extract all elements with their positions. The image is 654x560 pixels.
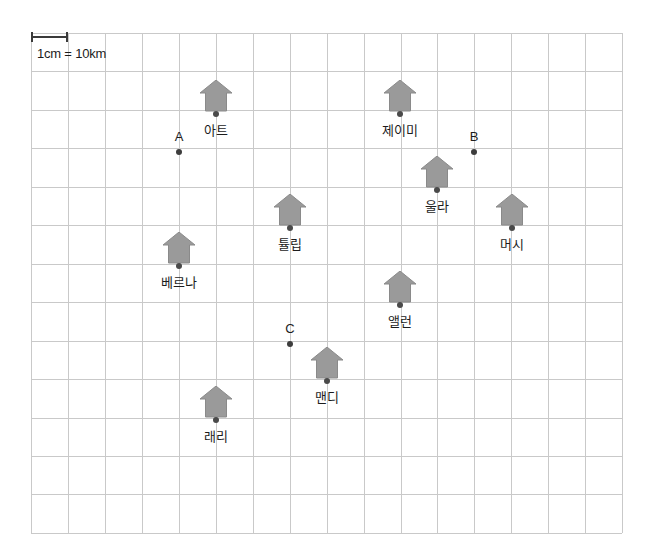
grid-line-horizontal	[31, 148, 622, 149]
grid-line-horizontal	[31, 33, 622, 34]
place-label: 제이미	[382, 120, 417, 139]
place-location-dot	[213, 111, 219, 117]
grid-line-vertical	[105, 33, 106, 533]
grid-line-vertical	[327, 33, 328, 533]
place-label: 앨런	[388, 311, 411, 330]
reference-point-dot	[471, 149, 477, 155]
scale-bar-cap-right	[66, 32, 68, 42]
place-label: 튤립	[278, 234, 301, 253]
grid-line-vertical	[585, 33, 586, 533]
grid-line-horizontal	[31, 110, 622, 111]
place-location-dot	[176, 263, 182, 269]
grid-line-horizontal	[31, 494, 622, 495]
place-label: 래리	[204, 426, 227, 445]
reference-point-label: B	[470, 129, 479, 144]
grid-line-vertical	[511, 33, 512, 533]
reference-point-dot	[176, 149, 182, 155]
grid-line-vertical	[622, 33, 623, 533]
place-label: 울라	[425, 196, 448, 215]
grid-line-horizontal	[31, 341, 622, 342]
grid-line-vertical	[253, 33, 254, 533]
grid-line-vertical	[31, 33, 32, 533]
place-location-dot	[509, 225, 515, 231]
grid-line-horizontal	[31, 456, 622, 457]
place-label: 베르나	[161, 272, 196, 291]
grid-line-vertical	[68, 33, 69, 533]
grid-line-horizontal	[31, 533, 622, 534]
grid-line-vertical	[142, 33, 143, 533]
grid-line-vertical	[364, 33, 365, 533]
grid-line-horizontal	[31, 71, 622, 72]
grid-line-horizontal	[31, 225, 622, 226]
place-label: 맨디	[315, 387, 338, 406]
place-location-dot	[213, 417, 219, 423]
scale-bar-cap-left	[31, 32, 33, 42]
reference-point-dot	[287, 341, 293, 347]
place-label: 머시	[500, 234, 523, 253]
place-location-dot	[287, 225, 293, 231]
scale-bar	[31, 32, 68, 42]
grid-line-vertical	[474, 33, 475, 533]
place-location-dot	[324, 378, 330, 384]
scale-label: 1cm = 10km	[37, 46, 106, 61]
place-location-dot	[397, 302, 403, 308]
map-grid	[31, 33, 622, 533]
grid-line-horizontal	[31, 264, 622, 265]
reference-point-label: A	[175, 129, 184, 144]
scale-bar-line	[31, 36, 68, 38]
grid-line-vertical	[437, 33, 438, 533]
grid-line-horizontal	[31, 418, 622, 419]
grid-line-horizontal	[31, 187, 622, 188]
place-location-dot	[434, 187, 440, 193]
reference-point-label: C	[285, 321, 294, 336]
grid-line-vertical	[290, 33, 291, 533]
place-label: 아트	[204, 120, 227, 139]
grid-line-horizontal	[31, 302, 622, 303]
map-canvas: 1cm = 10km 아트제이미울라머시튤립베르나앨런맨디래리 ABC	[0, 0, 654, 560]
grid-line-vertical	[548, 33, 549, 533]
place-location-dot	[397, 111, 403, 117]
